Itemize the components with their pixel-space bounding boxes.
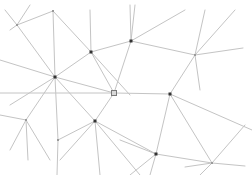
graph-edge: [131, 5, 135, 41]
graph-edge: [26, 120, 28, 160]
graph-edge: [212, 125, 245, 163]
graph-edge: [55, 77, 95, 121]
graph-edge: [26, 77, 55, 120]
graph-node: [57, 139, 59, 141]
graph-edge: [58, 121, 95, 140]
graph-edge: [130, 5, 131, 41]
graph-edge: [195, 10, 205, 55]
graph-edge: [10, 77, 55, 105]
graph-edge: [26, 120, 50, 160]
graph-node: [25, 119, 27, 121]
graph-node: [194, 54, 196, 56]
graph-edge: [95, 121, 100, 175]
graph-edge: [10, 120, 26, 150]
graph-edge: [195, 48, 243, 55]
graph-node: [211, 162, 213, 164]
graph-edge: [212, 163, 245, 166]
graph-edge: [95, 93, 114, 121]
nodes-layer: [16, 10, 213, 164]
graph-node: [16, 24, 18, 26]
graph-node: [155, 153, 158, 156]
graph-edge: [195, 10, 235, 55]
graph-edge: [170, 94, 252, 130]
graph-node: [90, 51, 93, 54]
graph-edge: [53, 11, 91, 52]
graph-edge: [17, 25, 55, 77]
graph-node: [169, 93, 172, 96]
graph-node: [94, 120, 97, 123]
graph-edge: [120, 140, 156, 154]
graph-edge: [156, 94, 170, 154]
graph-canvas: [0, 0, 252, 175]
graph-edge: [0, 60, 55, 77]
graph-edge: [91, 52, 114, 93]
graph-edge: [53, 11, 55, 77]
graph-edge: [91, 41, 131, 52]
graph-edge: [17, 11, 53, 25]
graph-edge: [131, 10, 185, 41]
graph-edge: [170, 94, 212, 163]
graph-node: [130, 40, 133, 43]
graph-edge: [55, 77, 58, 140]
graph-edge: [131, 41, 195, 55]
graph-edge: [170, 55, 195, 94]
graph-edge: [130, 154, 156, 175]
graph-edge: [60, 121, 95, 160]
graph-edge: [10, 25, 17, 30]
graph-edge: [95, 121, 156, 154]
graph-edge: [55, 77, 114, 93]
graph-edge: [95, 121, 140, 175]
graph-edge: [114, 41, 131, 93]
graph-edge: [55, 52, 91, 77]
edges-layer: [0, 5, 252, 175]
graph-edge: [195, 55, 200, 90]
graph-edge: [150, 154, 156, 175]
graph-edge: [90, 10, 91, 52]
selected-node-square: [112, 91, 117, 96]
graph-edge: [57, 140, 58, 175]
network-diagram: [0, 0, 252, 175]
graph-node: [54, 76, 57, 79]
graph-node: [52, 10, 54, 12]
graph-edge: [156, 154, 212, 163]
graph-edge: [114, 93, 170, 94]
graph-edge: [5, 10, 17, 25]
graph-edge: [0, 115, 26, 120]
